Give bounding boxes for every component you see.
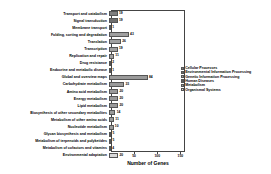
bar-row: Global and overview maps84	[0, 74, 185, 81]
category-label: Metabolism of terpenoids and polyketides	[0, 139, 109, 143]
bar-value-label: 2	[112, 61, 114, 65]
legend-color-swatch	[181, 67, 184, 70]
bar-cell: 11	[109, 53, 185, 60]
bar-cell: 11	[109, 116, 185, 123]
bar-value-label: 33	[125, 83, 129, 87]
bar-cell: 10	[109, 124, 185, 131]
bar-row: Transcription19	[0, 45, 185, 52]
bar-cell: 1	[109, 24, 185, 31]
category-label: Folding, sorting and degradation	[0, 33, 109, 37]
bar	[109, 54, 114, 59]
category-label: Translation	[0, 40, 109, 44]
bar-value-label: 1	[112, 69, 114, 73]
bar-row: Signal transduction19	[0, 17, 185, 24]
bar	[109, 110, 115, 115]
bar-value-label: 20	[119, 90, 123, 94]
bar	[109, 32, 129, 37]
bar-value-label: 11	[115, 118, 119, 122]
bar-row: Replication and repair11	[0, 53, 185, 60]
bar-row: Nucleotide metabolism10	[0, 124, 185, 131]
bar-value-label: 19	[119, 47, 123, 51]
bar-row: Glycan biosynthesis and metabolism5	[0, 131, 185, 138]
bar-value-label: 4	[112, 147, 114, 151]
bar	[109, 75, 148, 80]
x-axis-tick-label: 50	[132, 154, 136, 158]
bar-cell: 19	[109, 17, 185, 24]
bar-value-label: 11	[115, 54, 119, 58]
category-label: Global and overview maps	[0, 75, 109, 79]
category-label: Lipid metabolism	[0, 104, 109, 108]
bar-value-label: 84	[149, 76, 153, 80]
bar	[109, 82, 124, 87]
bar	[109, 25, 111, 30]
category-label: Metabolism of cofactors and vitamins	[0, 146, 109, 150]
x-axis-tick-label: 100	[154, 154, 160, 158]
bar-cell: 2	[109, 60, 185, 67]
bar-value-label: 43	[130, 33, 134, 37]
bar-cell: 19	[109, 10, 185, 17]
chart-legend: Cellular ProcessesEnvironmental Informat…	[181, 66, 251, 92]
bar-row: Biosynthesis of other secondary metaboli…	[0, 109, 185, 116]
bar-value-label: 19	[119, 19, 123, 23]
category-label: Biosynthesis of other secondary metaboli…	[0, 111, 109, 115]
category-label: Energy metabolism	[0, 97, 109, 101]
bar-row: Metabolism of terpenoids and polyketides…	[0, 138, 185, 145]
bar-row: Membrane transport1	[0, 24, 185, 31]
category-label: Signal transduction	[0, 19, 109, 23]
bar-value-label: 1	[112, 26, 114, 30]
bar-cell: 14	[109, 109, 185, 116]
bar-cell: 43	[109, 31, 185, 38]
bar-row: Amino acid metabolism20	[0, 88, 185, 95]
bar	[109, 96, 118, 101]
bar-cell: 26	[109, 38, 185, 45]
bar-value-label: 10	[115, 125, 119, 129]
bar	[109, 39, 121, 44]
bar-rows: Transport and catabolism19Signal transdu…	[0, 10, 185, 152]
bar-cell: 84	[109, 74, 185, 81]
bar	[109, 103, 118, 108]
bar-value-label: 20	[119, 104, 123, 108]
x-axis-label: Number of Genes	[111, 160, 185, 166]
legend-label: Organismal Systems	[185, 88, 221, 92]
legend-color-swatch	[181, 88, 184, 91]
bar-row: Energy metabolism20	[0, 95, 185, 102]
bar	[109, 11, 118, 16]
category-label: Amino acid metabolism	[0, 90, 109, 94]
bar-row: Carbohydrate metabolism33	[0, 81, 185, 88]
bar-row: Endocrine and metabolic disease1	[0, 67, 185, 74]
category-label: Transport and catabolism	[0, 12, 109, 16]
bar-cell: 4	[109, 145, 185, 152]
bar	[109, 117, 114, 122]
bar-value-label: 19	[119, 12, 123, 16]
bar	[109, 125, 114, 130]
bar-value-label: 26	[122, 40, 126, 44]
bar	[109, 47, 118, 52]
category-label: Metabolism of other amino acids	[0, 118, 109, 122]
kegg-pathway-bar-chart: Transport and catabolism19Signal transdu…	[0, 0, 271, 174]
bar-row: Folding, sorting and degradation43	[0, 31, 185, 38]
bar-row: Translation26	[0, 38, 185, 45]
bar-row: Metabolism of other amino acids11	[0, 116, 185, 123]
bar-value-label: 5	[113, 139, 115, 143]
legend-item: Organismal Systems	[181, 87, 251, 91]
legend-color-swatch	[181, 75, 184, 78]
bar	[109, 89, 118, 94]
x-axis-tick-label: 150	[178, 154, 184, 158]
category-label: Nucleotide metabolism	[0, 125, 109, 129]
bar-cell: 5	[109, 131, 185, 138]
bar-cell: 5	[109, 138, 185, 145]
bar	[109, 139, 111, 144]
bar-value-label: 14	[117, 111, 121, 115]
bar-cell: 20	[109, 95, 185, 102]
category-label: Carbohydrate metabolism	[0, 82, 109, 86]
category-label: Endocrine and metabolic disease	[0, 68, 109, 72]
category-label: Transcription	[0, 47, 109, 51]
bar-row: Lipid metabolism20	[0, 102, 185, 109]
bar-cell: 20	[109, 88, 185, 95]
bar	[109, 132, 111, 137]
bar-value-label: 20	[119, 97, 123, 101]
bar-value-label: 5	[113, 132, 115, 136]
bar-row: Transport and catabolism19	[0, 10, 185, 17]
bar-cell: 1	[109, 67, 185, 74]
bar	[109, 61, 111, 66]
